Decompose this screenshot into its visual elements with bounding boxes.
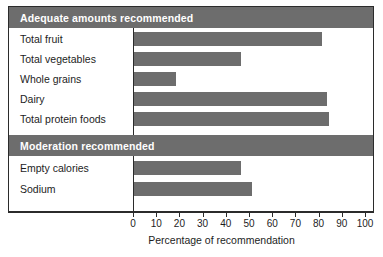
x-axis-tick-label-80: 80: [313, 218, 324, 229]
x-axis-tick-50: [249, 212, 250, 217]
x-axis-tick-10: [156, 212, 157, 217]
x-axis-tick-label-10: 10: [151, 218, 162, 229]
bar-total-fruit: [134, 32, 322, 46]
bar-chart: Adequate amounts recommended Total fruit…: [0, 0, 383, 257]
x-axis-tick-label-0: 0: [130, 218, 136, 229]
x-axis-tick-80: [319, 212, 320, 217]
x-axis-tick-label-50: 50: [243, 218, 254, 229]
x-axis-tick-label-20: 20: [174, 218, 185, 229]
section-header-adequate-label: Adequate amounts recommended: [9, 12, 193, 24]
bar-dairy: [134, 92, 327, 106]
x-axis-tick-label-70: 70: [290, 218, 301, 229]
category-label-total-protein-foods: Total protein foods: [20, 114, 106, 125]
x-axis-tick-40: [226, 212, 227, 217]
category-label-sodium: Sodium: [20, 184, 56, 195]
x-axis-title: Percentage of recommendation: [0, 234, 383, 246]
x-axis-tick-label-60: 60: [267, 218, 278, 229]
category-label-total-fruit: Total fruit: [20, 34, 63, 45]
bar-whole-grains: [134, 72, 176, 86]
x-axis-tick-70: [295, 212, 296, 217]
x-axis-tick-label-100: 100: [357, 218, 374, 229]
bar-total-protein-foods: [134, 112, 329, 126]
x-axis-tick-label-90: 90: [336, 218, 347, 229]
category-label-empty-calories: Empty calories: [20, 163, 89, 174]
section-header-moderation: Moderation recommended: [9, 135, 373, 156]
category-label-dairy: Dairy: [20, 94, 45, 105]
x-axis-tick-100: [365, 212, 366, 217]
bar-total-vegetables: [134, 52, 241, 66]
x-axis-tick-90: [342, 212, 343, 217]
bar-empty-calories: [134, 161, 241, 175]
section-header-adequate: Adequate amounts recommended: [9, 7, 373, 28]
plot-frame: Adequate amounts recommended Total fruit…: [8, 6, 374, 212]
section-header-moderation-label: Moderation recommended: [9, 140, 155, 152]
x-axis-tick-60: [272, 212, 273, 217]
x-axis-tick-0: [133, 212, 134, 217]
bar-sodium: [134, 182, 252, 196]
x-axis-tick-label-40: 40: [220, 218, 231, 229]
x-axis-tick-label-30: 30: [197, 218, 208, 229]
x-axis-tick-20: [179, 212, 180, 217]
x-axis-tick-30: [203, 212, 204, 217]
category-label-total-vegetables: Total vegetables: [20, 54, 96, 65]
category-label-whole-grains: Whole grains: [20, 74, 81, 85]
